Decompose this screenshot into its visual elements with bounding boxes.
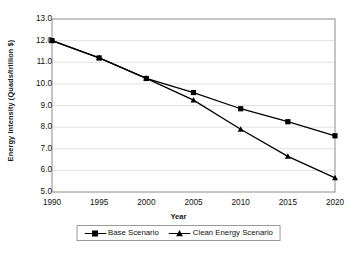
legend-entry-base-scenario: Base Scenario bbox=[84, 228, 159, 238]
square-marker-icon bbox=[84, 229, 106, 238]
x-axis-tick-label: 1995 bbox=[90, 198, 108, 207]
y-axis-tick-label: 12.0 bbox=[18, 37, 52, 45]
chart-container: Energy Intensity (Quads/trillion $) 13.0… bbox=[0, 0, 357, 254]
gridlines bbox=[52, 41, 335, 171]
x-axis-tick-label: 2020 bbox=[326, 198, 344, 207]
x-axis-tick-label: 2010 bbox=[232, 198, 250, 207]
y-axis-tick-label: 9.0 bbox=[18, 102, 52, 110]
x-axis-title: Year bbox=[0, 212, 357, 221]
x-axis-tick-label: 2000 bbox=[137, 198, 155, 207]
y-axis-tick-label: 5.0 bbox=[18, 188, 52, 196]
x-axis-tick-label: 2005 bbox=[184, 198, 202, 207]
x-axis-tick-label: 1990 bbox=[43, 198, 61, 207]
series-layer bbox=[49, 38, 338, 181]
y-axis-tick-label: 13.0 bbox=[18, 15, 52, 23]
legend-label-base-scenario: Base Scenario bbox=[108, 228, 159, 238]
legend-label-clean-energy-scenario: Clean Energy Scenario bbox=[193, 228, 273, 238]
y-axis-tick-label: 8.0 bbox=[18, 123, 52, 131]
legend-entry-clean-energy-scenario: Clean Energy Scenario bbox=[169, 228, 273, 238]
chart-legend: Base Scenario Clean Energy Scenario bbox=[76, 225, 281, 241]
y-axis-tick-label: 10.0 bbox=[18, 80, 52, 88]
x-axis-tick-label: 2015 bbox=[279, 198, 297, 207]
y-axis-tick-label: 7.0 bbox=[18, 145, 52, 153]
y-axis-tick-label: 11.0 bbox=[18, 58, 52, 66]
triangle-marker-icon bbox=[169, 229, 191, 238]
y-axis-tick-label: 6.0 bbox=[18, 166, 52, 174]
